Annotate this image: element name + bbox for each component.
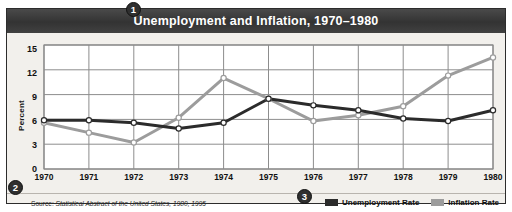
legend-item-inflation: Inflation Rate bbox=[431, 198, 499, 207]
data-point bbox=[446, 118, 451, 123]
source-note: Source: Statistical Abstract of the Unit… bbox=[31, 200, 206, 207]
x-tick-1978: 1978 bbox=[387, 172, 419, 182]
data-point bbox=[490, 108, 495, 113]
data-point bbox=[446, 73, 451, 78]
source-label: Source: bbox=[31, 200, 54, 207]
data-point bbox=[131, 140, 136, 145]
plot-area: Percent 15 12 9 6 3 0 197019711972197319… bbox=[7, 33, 505, 203]
callout-badge-3: 3 bbox=[297, 189, 312, 204]
data-point bbox=[311, 103, 316, 108]
x-tick-1971: 1971 bbox=[73, 172, 105, 182]
x-tick-1974: 1974 bbox=[208, 172, 240, 182]
x-tick-1970: 1970 bbox=[28, 172, 60, 182]
data-point bbox=[401, 104, 406, 109]
data-point bbox=[221, 120, 226, 125]
data-point bbox=[86, 130, 91, 135]
chart-legend: Unemployment Rate Inflation Rate bbox=[325, 198, 499, 207]
chart-title-bar: Unemployment and Inflation, 1970–1980 bbox=[7, 9, 505, 33]
x-tick-1973: 1973 bbox=[163, 172, 195, 182]
x-tick-1976: 1976 bbox=[297, 172, 329, 182]
legend-swatch-unemployment bbox=[325, 199, 338, 206]
legend-swatch-inflation bbox=[431, 199, 444, 206]
data-point bbox=[490, 55, 495, 60]
source-citation: Statistical Abstract of the United State… bbox=[56, 200, 206, 207]
data-point bbox=[41, 118, 46, 123]
data-point bbox=[356, 108, 361, 113]
data-point bbox=[131, 120, 136, 125]
x-tick-1980: 1980 bbox=[477, 172, 509, 182]
data-point bbox=[311, 118, 316, 123]
data-point bbox=[266, 96, 271, 101]
data-point bbox=[221, 75, 226, 80]
legend-item-unemployment: Unemployment Rate bbox=[325, 198, 419, 207]
figure-root: Unemployment and Inflation, 1970–1980 Pe… bbox=[0, 0, 512, 212]
callout-badge-1: 1 bbox=[126, 2, 141, 17]
data-point bbox=[176, 126, 181, 131]
x-tick-1975: 1975 bbox=[253, 172, 285, 182]
footer-divider bbox=[7, 193, 505, 194]
data-point bbox=[86, 118, 91, 123]
data-point bbox=[176, 115, 181, 120]
legend-label-unemployment: Unemployment Rate bbox=[342, 198, 419, 207]
x-tick-1972: 1972 bbox=[118, 172, 150, 182]
x-tick-1979: 1979 bbox=[432, 172, 464, 182]
data-point bbox=[401, 116, 406, 121]
callout-badge-2: 2 bbox=[8, 180, 23, 195]
x-tick-1977: 1977 bbox=[342, 172, 374, 182]
chart-panel: Unemployment and Inflation, 1970–1980 Pe… bbox=[6, 8, 506, 204]
page-title: Unemployment and Inflation, 1970–1980 bbox=[134, 14, 379, 28]
legend-label-inflation: Inflation Rate bbox=[448, 198, 499, 207]
